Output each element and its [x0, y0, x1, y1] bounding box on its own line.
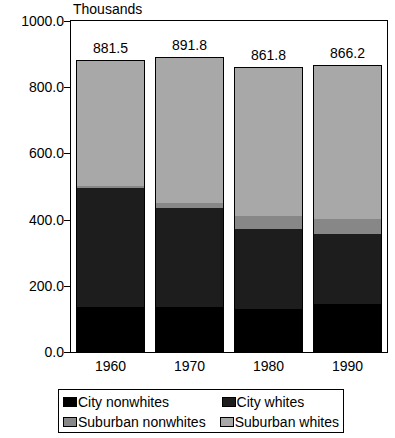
y-tick-mark: [64, 352, 70, 353]
legend-swatch-icon-city-nonwhites: [63, 397, 77, 407]
y-tick-mark: [64, 21, 70, 22]
x-tick-label-1970: 1970: [150, 358, 229, 374]
legend-item-city-whites: City whites: [222, 394, 339, 410]
bar-segment-1970-suburban-nonwhites: [155, 203, 224, 208]
legend-row-1: City nonwhites City whites: [63, 392, 339, 412]
legend-label-city-whites: City whites: [237, 394, 305, 410]
legend-label-suburban-whites: Suburban whites: [235, 414, 339, 430]
bar-segment-1980-suburban-whites: [234, 67, 303, 216]
legend-label-suburban-nonwhites: Suburban nonwhites: [78, 414, 206, 430]
bar-total-label-1980: 861.8: [229, 48, 308, 62]
chart-legend: City nonwhites City whites Suburban nonw…: [58, 389, 344, 433]
legend-swatch-icon-suburban-whites: [220, 417, 234, 427]
legend-item-city-nonwhites: City nonwhites: [63, 394, 222, 410]
bar-segment-1990-city-whites: [313, 234, 382, 305]
bar-column-1960[interactable]: [76, 60, 145, 352]
bar-segment-1970-city-whites: [155, 208, 224, 307]
legend-item-suburban-nonwhites: Suburban nonwhites: [63, 414, 220, 430]
bar-segment-1980-suburban-nonwhites: [234, 216, 303, 229]
bar-column-1980[interactable]: [234, 67, 303, 352]
bar-column-1970[interactable]: [155, 57, 224, 352]
bar-segment-1970-city-nonwhites: [155, 307, 224, 352]
y-tick-label-1000-0: 1000.0: [0, 14, 64, 28]
y-tick-mark: [64, 286, 70, 287]
x-tick-label-1980: 1980: [229, 358, 308, 374]
bar-total-label-1990: 866.2: [308, 46, 387, 60]
legend-swatch-icon-suburban-nonwhites: [63, 417, 77, 427]
x-tick-label-1960: 1960: [71, 358, 150, 374]
y-tick-label-0-0: 0.0: [0, 345, 64, 359]
bar-segment-1990-city-nonwhites: [313, 304, 382, 352]
y-tick-label-400-0: 400.0: [0, 213, 64, 227]
bar-segment-1960-city-whites: [76, 188, 145, 308]
y-tick-label-800-0: 800.0: [0, 80, 64, 94]
bar-segment-1970-suburban-whites: [155, 57, 224, 203]
legend-swatch-icon-city-whites: [222, 397, 236, 407]
legend-label-city-nonwhites: City nonwhites: [78, 394, 169, 410]
y-tick-mark: [64, 153, 70, 154]
chart-container: Thousands 0.0200.0400.0600.0800.01000.0 …: [0, 0, 395, 438]
bar-segment-1960-suburban-nonwhites: [76, 186, 145, 188]
bar-segment-1960-suburban-whites: [76, 60, 145, 185]
bar-segment-1960-city-nonwhites: [76, 307, 145, 352]
y-tick-label-600-0: 600.0: [0, 146, 64, 160]
bar-series-layer: [71, 21, 387, 352]
bar-segment-1990-suburban-whites: [313, 65, 382, 218]
bar-total-label-1970: 891.8: [150, 38, 229, 52]
bar-segment-1980-city-nonwhites: [234, 309, 303, 352]
legend-item-suburban-whites: Suburban whites: [220, 414, 339, 430]
x-tick-label-1990: 1990: [308, 358, 387, 374]
bar-column-1990[interactable]: [313, 65, 382, 352]
y-axis-title: Thousands: [73, 1, 142, 17]
legend-row-2: Suburban nonwhites Suburban whites: [63, 412, 339, 432]
y-tick-mark: [64, 87, 70, 88]
bar-total-label-1960: 881.5: [71, 41, 150, 55]
y-tick-mark: [64, 220, 70, 221]
y-tick-label-200-0: 200.0: [0, 279, 64, 293]
bar-segment-1990-suburban-nonwhites: [313, 219, 382, 234]
bar-segment-1980-city-whites: [234, 229, 303, 309]
